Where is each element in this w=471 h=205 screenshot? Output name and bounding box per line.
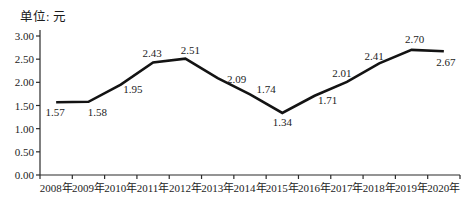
y-tick-label: 2.00 <box>15 76 35 88</box>
x-tick-label: 2016年 <box>298 181 331 194</box>
y-axis-ticks: 0.000.501.001.502.002.503.00 <box>15 30 40 181</box>
x-tick-label: 2013年 <box>201 181 234 194</box>
point-label: 1.74 <box>256 83 276 95</box>
x-tick-label: 2011年 <box>137 181 170 194</box>
y-tick-label: 0.50 <box>15 146 35 158</box>
axes <box>40 30 460 175</box>
point-labels: 1.571.581.952.432.512.091.741.341.712.01… <box>46 33 456 128</box>
point-label: 1.57 <box>46 106 66 118</box>
series-line <box>56 50 444 113</box>
x-tick-label: 2018年 <box>363 181 396 194</box>
point-label: 1.34 <box>273 116 293 128</box>
x-tick-label: 2010年 <box>104 181 137 194</box>
x-tick-label: 2020年 <box>427 181 460 194</box>
x-tick-label: 2008年 <box>40 181 73 194</box>
x-tick-label: 2017年 <box>330 181 363 194</box>
y-tick-label: 0.00 <box>15 169 35 181</box>
point-label: 2.51 <box>181 44 200 56</box>
x-tick-label: 2009年 <box>72 181 105 194</box>
point-label: 2.70 <box>405 33 425 45</box>
point-label: 1.58 <box>88 106 108 118</box>
unit-label: 单位: 元 <box>20 9 66 24</box>
point-label: 2.67 <box>436 56 456 68</box>
point-label: 1.71 <box>318 94 337 106</box>
y-tick-label: 3.00 <box>15 30 35 42</box>
x-tick-label: 2015年 <box>266 181 299 194</box>
x-tick-label: 2012年 <box>169 181 202 194</box>
y-tick-label: 2.50 <box>15 53 35 65</box>
data-series <box>56 50 444 113</box>
y-tick-label: 1.50 <box>15 100 35 112</box>
chart-page: 单位: 元 0.000.501.001.502.002.503.00 2008年… <box>0 0 471 205</box>
y-tick-label: 1.00 <box>15 123 35 135</box>
x-tick-label: 2019年 <box>395 181 428 194</box>
point-label: 2.43 <box>142 47 162 59</box>
point-label: 1.95 <box>123 83 143 95</box>
x-tick-label: 2014年 <box>234 181 267 194</box>
point-label: 2.09 <box>227 73 247 85</box>
x-axis-ticks: 2008年2009年2010年2011年2012年2013年2014年2015年… <box>40 175 461 194</box>
point-label: 2.01 <box>332 67 351 79</box>
line-chart: 单位: 元 0.000.501.001.502.002.503.00 2008年… <box>0 0 471 205</box>
point-label: 2.41 <box>365 50 384 62</box>
